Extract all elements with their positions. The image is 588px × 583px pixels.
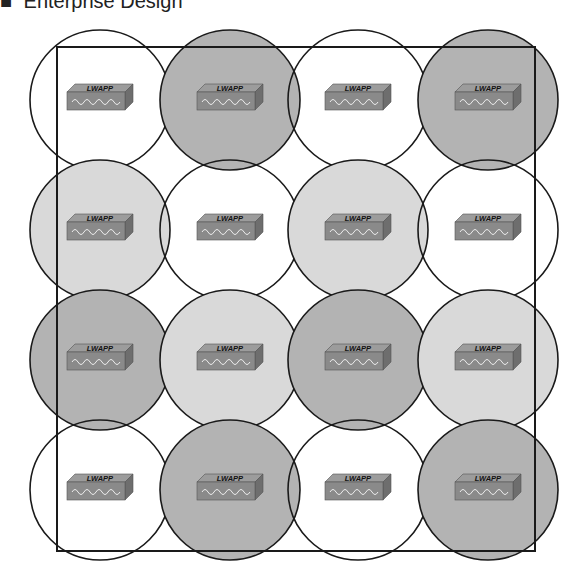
lwapp-access-point-icon: LWAPP	[67, 474, 133, 501]
lwapp-access-point-icon: LWAPP	[325, 344, 391, 371]
ap-label: LWAPP	[475, 474, 502, 483]
lwapp-access-point-icon: LWAPP	[67, 344, 133, 371]
lwapp-access-point-icon: LWAPP	[197, 84, 263, 111]
ap-coverage-diagram: LWAPPLWAPPLWAPPLWAPPLWAPPLWAPPLWAPPLWAPP…	[0, 0, 588, 583]
lwapp-access-point-icon: LWAPP	[67, 84, 133, 111]
lwapp-access-point-icon: LWAPP	[455, 84, 521, 111]
lwapp-access-point-icon: LWAPP	[197, 214, 263, 241]
lwapp-access-point-icon: LWAPP	[67, 214, 133, 241]
ap-label: LWAPP	[475, 84, 502, 93]
ap-label: LWAPP	[475, 344, 502, 353]
lwapp-access-point-icon: LWAPP	[325, 474, 391, 501]
ap-label: LWAPP	[345, 84, 372, 93]
ap-label: LWAPP	[87, 214, 114, 223]
ap-label: LWAPP	[87, 344, 114, 353]
ap-label: LWAPP	[217, 214, 244, 223]
ap-label: LWAPP	[345, 344, 372, 353]
ap-label: LWAPP	[87, 84, 114, 93]
ap-label: LWAPP	[87, 474, 114, 483]
lwapp-access-point-icon: LWAPP	[455, 344, 521, 371]
lwapp-access-point-icon: LWAPP	[455, 214, 521, 241]
ap-label: LWAPP	[345, 214, 372, 223]
lwapp-access-point-icon: LWAPP	[455, 474, 521, 501]
lwapp-access-point-icon: LWAPP	[197, 474, 263, 501]
lwapp-access-point-icon: LWAPP	[197, 344, 263, 371]
ap-label: LWAPP	[217, 344, 244, 353]
ap-label: LWAPP	[345, 474, 372, 483]
ap-label: LWAPP	[217, 84, 244, 93]
lwapp-access-point-icon: LWAPP	[325, 214, 391, 241]
ap-label: LWAPP	[217, 474, 244, 483]
lwapp-access-point-icon: LWAPP	[325, 84, 391, 111]
ap-label: LWAPP	[475, 214, 502, 223]
